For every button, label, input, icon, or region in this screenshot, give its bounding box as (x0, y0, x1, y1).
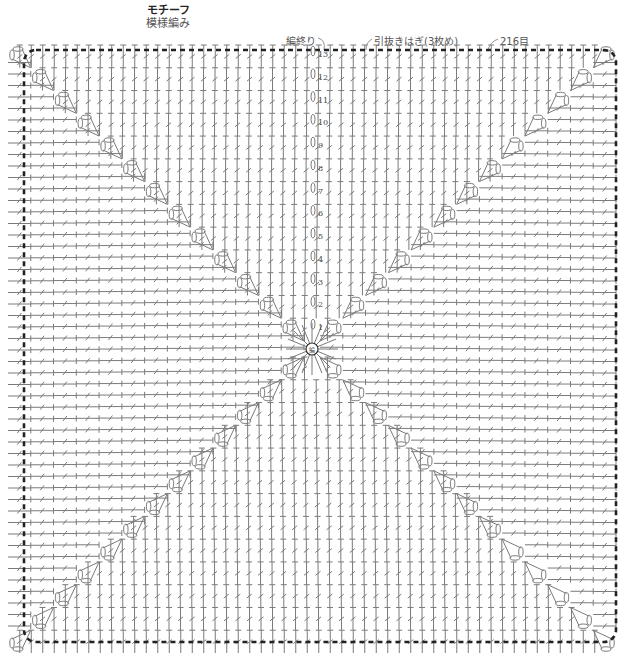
svg-text:12: 12 (318, 73, 328, 82)
svg-text:7: 7 (318, 187, 323, 196)
annotation-leaders (318, 38, 498, 50)
svg-text:11: 11 (318, 96, 328, 105)
svg-text:13: 13 (318, 50, 328, 59)
round-numbers: 12345678910111213 (311, 46, 328, 332)
svg-text:6: 6 (318, 209, 323, 218)
svg-text:10: 10 (318, 118, 328, 127)
svg-text:3: 3 (318, 278, 323, 287)
svg-text:2: 2 (318, 300, 323, 309)
svg-text:編: 編 (309, 346, 315, 354)
svg-text:1: 1 (318, 323, 323, 332)
center-ring: 編 (306, 343, 318, 355)
svg-text:8: 8 (318, 164, 323, 173)
svg-text:5: 5 (318, 232, 323, 241)
crochet-chart: 編 12345678910111213 (0, 0, 625, 669)
svg-text:9: 9 (318, 141, 323, 150)
svg-text:4: 4 (318, 255, 323, 264)
